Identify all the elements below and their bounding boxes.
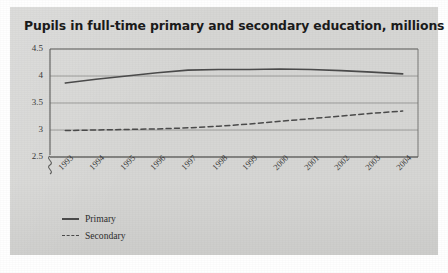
series-line-secondary xyxy=(65,111,402,130)
legend-item-label: Secondary xyxy=(85,228,126,243)
page-root: Pupils in full-time primary and secondar… xyxy=(0,0,448,273)
y-axis-tick-label: 3 xyxy=(17,125,43,134)
chart-card: Pupils in full-time primary and secondar… xyxy=(10,7,438,255)
gridlines xyxy=(50,49,418,157)
legend-item-label: Primary xyxy=(85,211,116,226)
chart-legend: PrimarySecondary xyxy=(62,211,242,245)
axis-lines xyxy=(49,49,418,174)
axis-break-squiggle xyxy=(49,156,52,174)
data-series-layer xyxy=(65,69,402,131)
y-axis-tick-label: 4.5 xyxy=(17,44,43,53)
y-axis-tick-label: 2.5 xyxy=(17,152,43,161)
y-axis-tick-label: 4 xyxy=(17,71,43,80)
y-axis-tick-label: 3.5 xyxy=(17,98,43,107)
legend-item: Secondary xyxy=(62,228,242,245)
legend-line-swatch-dashed xyxy=(62,235,79,236)
legend-line-swatch-solid xyxy=(62,218,79,220)
legend-item: Primary xyxy=(62,211,242,228)
